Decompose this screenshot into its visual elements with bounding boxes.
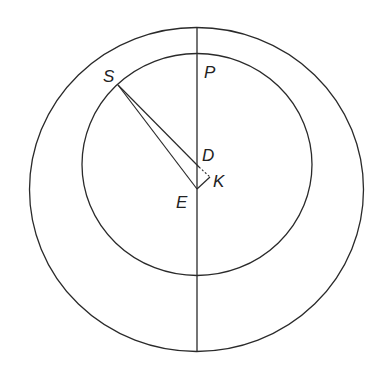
diagram-canvas: S P D K E xyxy=(0,0,385,371)
line-K-E xyxy=(197,177,210,189)
label-E: E xyxy=(176,194,187,211)
label-S: S xyxy=(103,68,114,85)
label-K: K xyxy=(213,173,224,190)
label-D: D xyxy=(202,147,214,164)
line-S-D xyxy=(118,85,199,167)
dashed-line-D-K xyxy=(199,167,210,177)
geometry-figure xyxy=(0,0,385,371)
label-P: P xyxy=(204,64,215,81)
line-S-E xyxy=(118,85,197,189)
